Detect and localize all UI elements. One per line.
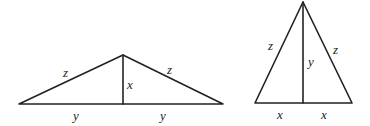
base-left-half-label: x (276, 107, 283, 122)
tall-isosceles-triangle: z z y x x (255, 2, 352, 122)
base-left-half-label: y (71, 108, 79, 123)
triangle-outline (19, 55, 223, 104)
left-side-label: z (62, 65, 68, 80)
base-right-half-label: y (158, 108, 166, 123)
altitude-label: x (126, 77, 133, 92)
right-side-label: z (166, 62, 172, 77)
right-side-label: z (332, 42, 338, 57)
left-side-label: z (267, 38, 273, 53)
diagram-canvas: z z x y y z z y x x (0, 0, 370, 126)
wide-isosceles-triangle: z z x y y (19, 55, 223, 123)
altitude-label: y (306, 54, 314, 69)
triangles-svg: z z x y y z z y x x (0, 0, 370, 126)
base-right-half-label: x (320, 107, 327, 122)
